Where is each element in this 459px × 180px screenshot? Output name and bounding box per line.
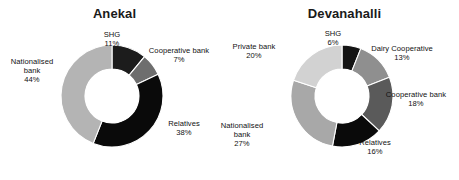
slice-label-value: 27% xyxy=(212,139,272,148)
slice-label-name: SHG xyxy=(308,29,358,38)
figure-two-donut-charts: Anekal SHG11%Cooperative bank7%Relatives… xyxy=(0,0,459,180)
slice-label: SHG11% xyxy=(84,30,140,48)
slice-label: Private bank20% xyxy=(224,42,284,60)
slice-label-name: Dairy Cooperative xyxy=(360,44,444,53)
slice-label: Relatives38% xyxy=(158,119,210,137)
slice-label: Cooperative bank18% xyxy=(376,90,456,108)
slice-label-value: 7% xyxy=(141,55,217,64)
slice-label-value: 16% xyxy=(350,147,400,156)
slice-label: Relatives16% xyxy=(350,138,400,156)
slice-label-name: Nationalised xyxy=(212,121,272,130)
slice-label-name: Nationalised xyxy=(2,57,62,66)
slice-label-name: Cooperative bank xyxy=(376,90,456,99)
slice-label-value: 44% xyxy=(2,75,62,84)
chart-panel-devanahalli: Devanahalli SHG6%Dairy Cooperative13%Coo… xyxy=(230,0,459,180)
slice-label: Nationalisedbank44% xyxy=(2,57,62,84)
donut-chart-anekal xyxy=(0,0,229,180)
slice-label: Dairy Cooperative13% xyxy=(360,44,444,62)
chart-panel-anekal: Anekal SHG11%Cooperative bank7%Relatives… xyxy=(0,0,229,180)
slice-label: SHG6% xyxy=(308,29,358,47)
slice-label-value: 6% xyxy=(308,38,358,47)
slice-label-name: bank xyxy=(2,66,62,75)
slice-label-value: 13% xyxy=(360,53,444,62)
slice-label-name: Relatives xyxy=(158,119,210,128)
slice-label-name: Relatives xyxy=(350,138,400,147)
slice-label-name: bank xyxy=(212,130,272,139)
donut-hole xyxy=(315,69,369,123)
slice-label-name: SHG xyxy=(84,30,140,39)
donut-hole xyxy=(85,69,139,123)
slice-label: Nationalisedbank27% xyxy=(212,121,272,148)
slice-label-value: 11% xyxy=(84,39,140,48)
slice-label-value: 38% xyxy=(158,128,210,137)
slice-label-value: 18% xyxy=(376,99,456,108)
slice-label-value: 20% xyxy=(224,51,284,60)
slice-label: Cooperative bank7% xyxy=(141,46,217,64)
slice-label-name: Private bank xyxy=(224,42,284,51)
slice-label-name: Cooperative bank xyxy=(141,46,217,55)
